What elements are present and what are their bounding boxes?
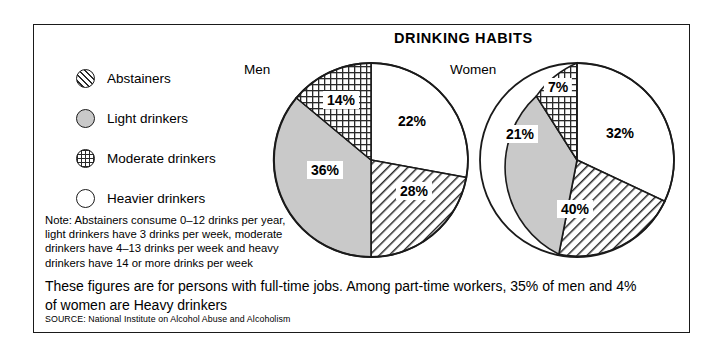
circle-swatch-icon	[76, 109, 95, 128]
pie-title-women: Women	[450, 62, 496, 77]
pie-men-label-abstainers: 28%	[396, 182, 432, 200]
circle-swatch-icon	[76, 149, 95, 168]
legend-item-label: Abstainers	[107, 71, 171, 86]
note-text: Note: Abstainers consume 0–12 drinks per…	[45, 213, 300, 270]
pie-men-label-light-drinkers: 36%	[307, 161, 343, 179]
pie-title-men: Men	[244, 62, 270, 77]
pie-men-label-heavier-drinkers: 22%	[398, 113, 426, 129]
legend-item-heavier-drinkers: Heavier drinkers	[76, 178, 286, 218]
statement-text: These figures are for persons with full-…	[45, 277, 645, 314]
legend-item-moderate-drinkers: Moderate drinkers	[76, 138, 286, 178]
pie-women-label-moderate-drinkers: 7%	[544, 78, 572, 96]
legend-item-light-drinkers: Light drinkers	[76, 98, 286, 138]
pie-men-label-moderate-drinkers: 14%	[323, 91, 359, 109]
circle-swatch-icon	[76, 189, 95, 208]
legend-item-label: Heavier drinkers	[107, 191, 205, 206]
pie-women-label-light-drinkers: 21%	[502, 125, 538, 143]
pie-women-label-abstainers: 40%	[557, 200, 593, 218]
legend: Abstainers Light drinkers Moderate drink…	[76, 58, 286, 218]
source-text: SOURCE: National Institute on Alcohol Ab…	[45, 314, 290, 324]
drinking-habits-infographic: DRINKING HABITS Abstainers Light drinker…	[0, 0, 726, 352]
legend-item-label: Moderate drinkers	[107, 151, 216, 166]
pie-women-label-heavier-drinkers: 32%	[606, 125, 634, 141]
page-title: DRINKING HABITS	[394, 30, 533, 46]
legend-item-label: Light drinkers	[107, 111, 188, 126]
circle-swatch-icon	[76, 69, 95, 88]
